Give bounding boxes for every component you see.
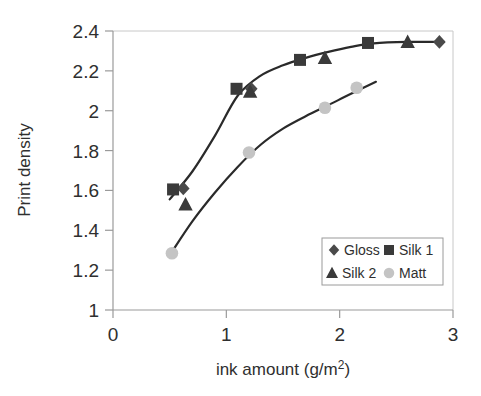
y-axis: 11.21.41.61.822.22.4 Print density [15,21,113,321]
legend-label: Gloss [344,242,380,258]
x-tick-labels: 0123 [108,324,459,345]
marker-triangle [178,197,192,211]
legend-label: Matt [399,265,426,281]
fitted-curves [170,42,444,255]
series-silk-1 [167,37,374,195]
x-axis-title: ink amount (g/m2) [216,358,350,379]
chart-canvas: 11.21.41.61.822.22.4 Print density 0123 … [0,0,481,396]
y-tick-label: 2 [88,101,99,122]
x-axis-title-tail: ) [344,360,350,379]
y-tick-label: 2.2 [73,61,99,82]
legend-label: Silk 1 [399,242,433,258]
y-tick-label: 1.4 [73,220,100,241]
print-density-chart: 11.21.41.61.822.22.4 Print density 0123 … [0,0,481,396]
marker-circle [350,81,363,94]
marker-square [231,83,243,95]
series-matt [166,81,363,259]
marker-circle [243,146,256,159]
marker-diamond [433,35,446,49]
y-tick-label: 1.8 [73,141,99,162]
x-tick-label: 2 [334,324,345,345]
x-axis-title-main: ink amount (g/m [216,360,338,379]
series-gloss [177,35,446,195]
y-tick-label: 1.6 [73,180,99,201]
legend-marker-square [384,245,394,255]
marker-square [362,37,374,49]
x-tick-marks [113,310,453,318]
x-tick-label: 1 [221,324,232,345]
curve-upper-curve [170,42,444,200]
y-tick-labels: 11.21.41.61.822.22.4 [73,21,100,321]
marker-square [167,183,179,195]
legend-marker-circle [384,268,395,279]
legend-label: Silk 2 [342,265,376,281]
y-axis-title: Print density [15,123,34,217]
curve-lower-curve [170,82,376,255]
y-tick-marks [105,31,113,310]
x-tick-label: 3 [448,324,459,345]
y-tick-label: 1.2 [73,260,99,281]
marker-square [294,54,306,66]
x-tick-label: 0 [108,324,119,345]
marker-circle [319,101,332,114]
chart-legend: GlossSilk 1Silk 2Matt [322,238,443,285]
marker-circle [166,247,179,260]
y-tick-label: 2.4 [73,21,100,42]
x-axis: 0123 ink amount (g/m2) [108,310,459,379]
y-tick-label: 1 [88,300,99,321]
